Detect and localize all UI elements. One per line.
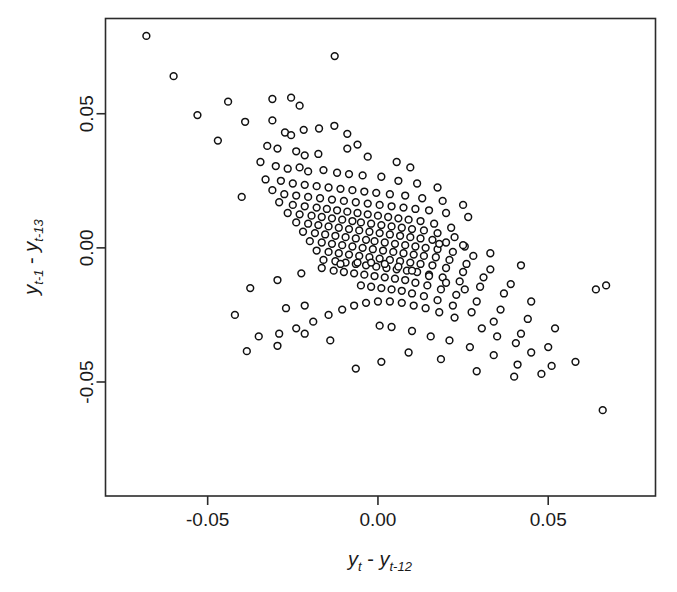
data-point bbox=[386, 298, 393, 305]
data-point bbox=[243, 348, 250, 355]
data-point bbox=[232, 312, 239, 319]
data-point bbox=[313, 247, 320, 254]
data-point bbox=[320, 167, 327, 174]
data-point bbox=[512, 340, 519, 347]
data-point bbox=[451, 234, 458, 241]
data-point bbox=[480, 274, 487, 281]
data-point bbox=[351, 270, 358, 277]
data-point bbox=[385, 214, 392, 221]
data-point bbox=[388, 286, 395, 293]
data-point bbox=[296, 102, 303, 109]
data-point bbox=[434, 184, 441, 191]
data-point bbox=[405, 216, 412, 223]
data-point bbox=[427, 333, 434, 340]
data-point bbox=[288, 94, 295, 101]
data-point bbox=[289, 202, 296, 209]
data-point bbox=[528, 349, 535, 356]
data-point bbox=[518, 262, 525, 269]
data-point bbox=[364, 211, 371, 218]
data-point bbox=[296, 211, 303, 218]
data-point bbox=[410, 251, 417, 258]
data-point bbox=[426, 273, 433, 280]
data-point bbox=[368, 220, 375, 227]
data-point bbox=[548, 362, 555, 369]
data-point bbox=[358, 219, 365, 226]
data-point bbox=[449, 302, 456, 309]
data-point bbox=[339, 242, 346, 249]
data-point bbox=[300, 228, 307, 235]
data-point bbox=[426, 207, 433, 214]
data-point bbox=[359, 172, 366, 179]
data-point bbox=[363, 236, 370, 243]
data-point bbox=[274, 145, 281, 152]
data-point bbox=[429, 262, 436, 269]
data-point bbox=[264, 143, 271, 150]
data-point bbox=[315, 151, 322, 158]
data-point bbox=[313, 183, 320, 190]
data-point bbox=[335, 224, 342, 231]
data-point bbox=[313, 204, 320, 211]
data-point bbox=[477, 283, 484, 290]
x-axis-title: yt - yt-12 bbox=[346, 548, 413, 574]
data-point bbox=[419, 195, 426, 202]
data-point bbox=[318, 214, 325, 221]
data-point bbox=[257, 159, 264, 166]
data-point bbox=[386, 231, 393, 238]
data-point bbox=[381, 261, 388, 268]
data-point bbox=[410, 302, 417, 309]
data-point bbox=[366, 228, 373, 235]
data-point bbox=[312, 230, 319, 237]
data-point bbox=[417, 261, 424, 268]
plot-canvas: -0.050.000.05 -0.050.000.05 yt - yt-12 y… bbox=[0, 0, 677, 592]
data-point bbox=[315, 222, 322, 229]
data-point bbox=[277, 177, 284, 184]
data-point bbox=[301, 181, 308, 188]
data-point bbox=[359, 244, 366, 251]
data-point bbox=[432, 254, 439, 261]
data-point bbox=[446, 337, 453, 344]
data-point bbox=[308, 212, 315, 219]
data-point bbox=[283, 305, 290, 312]
data-point bbox=[346, 251, 353, 258]
data-point bbox=[170, 73, 177, 80]
data-point bbox=[407, 234, 414, 241]
data-point bbox=[412, 279, 419, 286]
data-point bbox=[378, 285, 385, 292]
data-point bbox=[339, 216, 346, 223]
data-point bbox=[422, 244, 429, 251]
data-point bbox=[490, 352, 497, 359]
data-point bbox=[331, 122, 338, 129]
data-point bbox=[356, 253, 363, 260]
data-point bbox=[352, 235, 359, 242]
data-point bbox=[269, 96, 276, 103]
scatter-plot-figure: -0.050.000.05 -0.050.000.05 yt - yt-12 y… bbox=[0, 0, 677, 592]
data-point bbox=[331, 53, 338, 60]
data-point bbox=[378, 222, 385, 229]
y-tick-label: -0.05 bbox=[76, 360, 97, 403]
data-point bbox=[352, 199, 359, 206]
data-point bbox=[470, 253, 477, 260]
data-point bbox=[143, 33, 150, 40]
data-point bbox=[274, 342, 281, 349]
data-point bbox=[334, 207, 341, 214]
data-point bbox=[340, 269, 347, 276]
data-point bbox=[511, 373, 518, 380]
data-point bbox=[392, 275, 399, 282]
x-tick-label: 0.00 bbox=[359, 509, 396, 530]
data-point bbox=[329, 215, 336, 222]
data-point bbox=[465, 214, 472, 221]
data-point bbox=[460, 202, 467, 209]
data-point bbox=[301, 203, 308, 210]
data-point bbox=[398, 299, 405, 306]
data-point bbox=[412, 243, 419, 250]
data-point bbox=[398, 224, 405, 231]
data-point bbox=[407, 164, 414, 171]
data-point bbox=[392, 240, 399, 247]
data-point bbox=[528, 298, 535, 305]
data-point bbox=[354, 259, 361, 266]
data-point bbox=[284, 210, 291, 217]
data-point bbox=[514, 361, 521, 368]
data-point bbox=[446, 257, 453, 264]
data-point bbox=[371, 273, 378, 280]
data-point bbox=[434, 230, 441, 237]
